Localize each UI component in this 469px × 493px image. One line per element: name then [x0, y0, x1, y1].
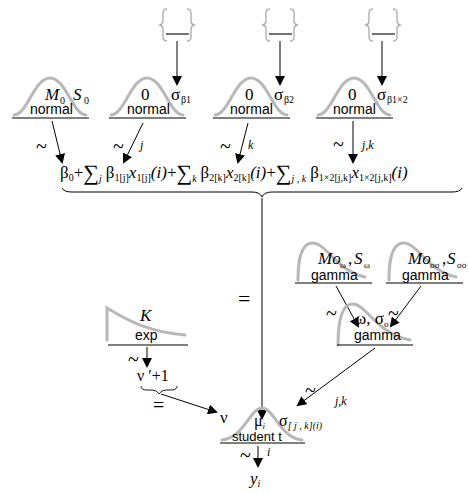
- outcome-y: yi: [248, 469, 261, 489]
- svg-text:Mo: Mo: [407, 249, 431, 268]
- svg-text:normal: normal: [230, 101, 273, 117]
- nu-label: ν: [220, 408, 228, 427]
- svg-text:gamma: gamma: [311, 267, 358, 283]
- svg-text:j,k: j,k: [333, 394, 347, 408]
- svg-text:K: K: [139, 306, 153, 325]
- svg-text:exp: exp: [135, 327, 158, 343]
- svg-text:normal: normal: [333, 101, 376, 117]
- normal-prior-beta2: 0 σ β2 normal ~ k: [213, 78, 294, 162]
- svg-text:student t: student t: [232, 429, 282, 444]
- linear-predictor: β0+∑jβ1[j]x1[j](i)+∑kβ2[k]x2[k](i)+∑j , …: [60, 160, 462, 418]
- hyperprior-sigma-beta12: [366, 9, 400, 84]
- svg-text:~: ~: [220, 135, 231, 157]
- svg-text:i: i: [267, 445, 270, 459]
- svg-text:~: ~: [113, 135, 124, 157]
- normal-prior-beta12: 0 σ β1×2 normal ~ j,k: [316, 78, 408, 162]
- svg-text:ω, σσ: ω, σσ: [355, 309, 389, 329]
- nu-prime-plus-one: ν ′+1: [137, 367, 169, 384]
- svg-text:β1: β1: [181, 94, 191, 105]
- svg-text:normal: normal: [127, 101, 170, 117]
- svg-text:~: ~: [305, 379, 316, 401]
- svg-text:σ: σ: [171, 85, 180, 104]
- svg-text:Mo: Mo: [317, 249, 341, 268]
- svg-text:j,k: j,k: [360, 138, 374, 152]
- svg-text:,: ,: [442, 249, 446, 268]
- svg-text:,: ,: [348, 249, 352, 268]
- nu-transform: ν ′+1 =: [137, 367, 216, 416]
- svg-text:σ: σ: [377, 85, 386, 104]
- linear-predictor-expression: β0+∑jβ1[j]x1[j](i)+∑kβ2[k]x2[k](i)+∑j , …: [60, 160, 408, 185]
- student-t-likelihood: ν μi σ[ j , k](i) student t ~ i: [220, 408, 323, 466]
- param-S0: S: [73, 85, 82, 104]
- svg-text:σ: σ: [274, 85, 283, 104]
- dist-label: normal: [30, 101, 73, 117]
- svg-text:~: ~: [333, 133, 344, 155]
- svg-text:β1×2: β1×2: [387, 94, 408, 105]
- svg-text:yi: yi: [248, 469, 261, 489]
- hyperprior-sigma-beta1: [160, 9, 194, 84]
- svg-text:S: S: [354, 249, 363, 268]
- svg-text:0: 0: [84, 95, 89, 106]
- model-diagram: M 0 S 0 normal ~ 0 σ β1 normal ~ j 0 σ β…: [0, 0, 469, 493]
- exp-prior: K exp ~: [107, 306, 188, 370]
- svg-text:~: ~: [326, 302, 337, 324]
- tilde: ~: [36, 135, 47, 157]
- equals-sign: =: [238, 286, 250, 311]
- svg-text:σ[ j , k](i): σ[ j , k](i): [279, 412, 323, 432]
- svg-text:k: k: [248, 138, 254, 152]
- normal-prior-beta1: 0 σ β1 normal ~ j: [109, 78, 191, 162]
- svg-text:j: j: [138, 138, 144, 152]
- svg-text:S: S: [447, 249, 456, 268]
- svg-text:σσ: σσ: [457, 260, 467, 270]
- svg-text:β2: β2: [284, 94, 294, 105]
- svg-text:gamma: gamma: [354, 327, 401, 343]
- svg-text:~: ~: [240, 444, 251, 466]
- svg-text:~: ~: [388, 302, 399, 324]
- gamma-prior-sigma-sigma: Mo σσ , S σσ gamma ~: [386, 243, 467, 326]
- svg-text:ω: ω: [364, 260, 370, 270]
- normal-prior-beta0: M 0 S 0 normal ~: [12, 78, 89, 162]
- hyperprior-sigma-beta2: [263, 9, 297, 84]
- svg-text:gamma: gamma: [402, 267, 449, 283]
- svg-text:=: =: [153, 394, 164, 416]
